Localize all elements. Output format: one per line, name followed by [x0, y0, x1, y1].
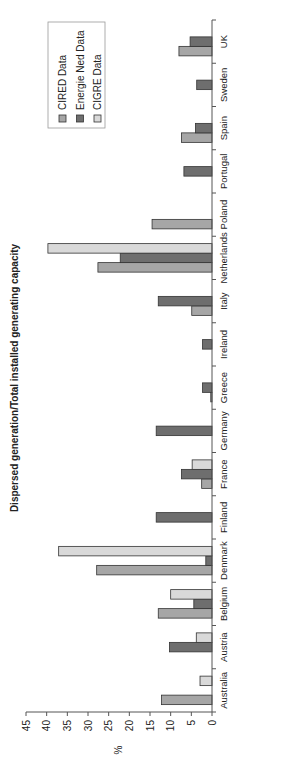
bar	[194, 599, 212, 609]
chart-title: Dispersed generation/Total installed gen…	[9, 243, 20, 512]
bar	[158, 609, 212, 619]
bar	[200, 676, 212, 686]
y-tick-label: 0	[207, 720, 218, 726]
category-label: Netherlands	[218, 232, 229, 283]
category-label: Belgium	[218, 587, 229, 621]
bars	[48, 37, 212, 705]
y-tick-label: 15	[145, 720, 156, 732]
bar	[48, 244, 212, 254]
legend-swatch	[59, 115, 66, 122]
bar-chart: Dispersed generation/Total installed gen…	[0, 0, 283, 778]
bar	[195, 123, 212, 133]
bar	[156, 513, 212, 523]
category-label: Germany	[218, 411, 229, 450]
y-tick-label: 20	[124, 720, 135, 732]
y-tick-label: 25	[103, 720, 114, 732]
bar	[206, 556, 212, 566]
y-tick-label: 35	[62, 720, 73, 732]
x-axis: AustraliaAustriaBelgiumDenmarkFinlandFra…	[212, 20, 229, 712]
category-label: Finland	[218, 502, 229, 533]
category-label: Greece	[218, 372, 229, 403]
category-label: Australia	[218, 671, 229, 709]
y-tick-label: 40	[41, 720, 52, 732]
y-axis-label: %	[113, 745, 124, 754]
category-label: Spain	[218, 116, 229, 140]
bar	[97, 565, 212, 575]
bar	[162, 695, 212, 705]
category-label: UK	[218, 34, 229, 48]
bar	[196, 633, 212, 643]
bar	[59, 546, 212, 556]
bar	[179, 46, 212, 56]
chart-stage: Dispersed generation/Total installed gen…	[0, 0, 283, 778]
category-label: France	[218, 459, 229, 489]
category-label: Sweden	[218, 68, 229, 102]
category-label: Poland	[218, 200, 229, 230]
category-label: Austria	[218, 632, 229, 662]
bar	[202, 383, 212, 393]
category-label: Denmark	[218, 541, 229, 580]
legend-swatch	[94, 115, 101, 122]
category-label: Italy	[218, 292, 229, 310]
bar	[156, 426, 212, 436]
bar	[98, 263, 212, 273]
legend-label: Energie Ned Data	[75, 30, 86, 110]
category-label: Portugal	[218, 154, 229, 189]
legend: CIRED DataEnergie Ned DataCIGRE Data	[48, 22, 105, 128]
bar	[169, 642, 212, 652]
y-axis: 051015202530354045	[21, 712, 218, 731]
bar	[202, 479, 212, 489]
bar	[158, 296, 212, 306]
bar	[181, 469, 212, 479]
legend-swatch	[77, 115, 84, 122]
legend-label: CIGRE Data	[92, 54, 103, 110]
bar	[171, 590, 212, 600]
bar	[202, 340, 212, 350]
bar	[197, 80, 212, 90]
y-tick-label: 5	[186, 720, 197, 726]
y-tick-label: 30	[83, 720, 94, 732]
category-label: Ireland	[218, 330, 229, 359]
bar	[120, 253, 212, 263]
bar	[192, 460, 212, 470]
y-tick-label: 45	[21, 720, 32, 732]
legend-label: CIRED Data	[57, 55, 68, 110]
bar	[184, 167, 212, 177]
bar	[190, 37, 212, 47]
y-tick-label: 10	[165, 720, 176, 732]
bar	[192, 306, 212, 316]
bar	[152, 219, 212, 229]
bar	[181, 133, 212, 143]
